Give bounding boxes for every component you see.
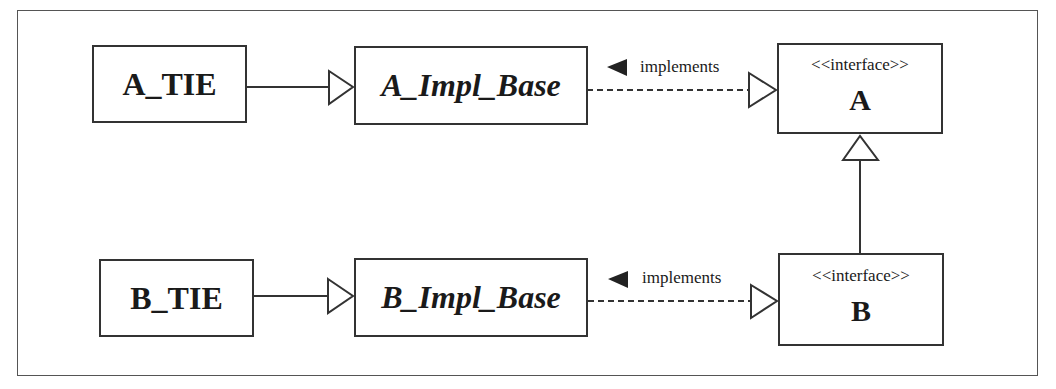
implements-label-a: implements — [640, 57, 719, 77]
class-name: B_Impl_Base — [381, 279, 561, 316]
class-b-tie: B_TIE — [99, 259, 254, 337]
class-a-impl-base: A_Impl_Base — [354, 46, 588, 125]
class-b-impl-base: B_Impl_Base — [354, 258, 588, 337]
interface-name: B — [851, 294, 871, 328]
class-name: B_TIE — [130, 280, 222, 317]
stereotype-label: <<interface>> — [811, 55, 909, 75]
class-name: A_Impl_Base — [381, 67, 561, 104]
generalization-a-tie-to-a-impl-base — [246, 71, 353, 104]
generalization-b-to-a — [843, 136, 878, 254]
generalization-b-tie-to-b-impl-base — [253, 279, 353, 313]
stereotype-label: <<interface>> — [812, 266, 910, 286]
class-name: A_TIE — [122, 66, 216, 103]
implements-label-b: implements — [642, 268, 721, 288]
direction-arrow-icon — [608, 271, 628, 288]
direction-arrow-icon — [607, 59, 627, 76]
interface-b: <<interface>> B — [778, 253, 944, 346]
interface-a: <<interface>> A — [777, 43, 943, 134]
class-a-tie: A_TIE — [92, 45, 247, 123]
interface-name: A — [849, 83, 871, 117]
